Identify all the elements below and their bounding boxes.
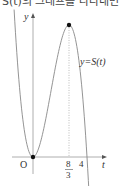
x-axis-label: t [102, 159, 105, 170]
tick-label-8-3-numerator: 8 [66, 159, 71, 169]
maximum-point [67, 23, 71, 27]
origin-label: O [20, 159, 27, 170]
tick-label-4: 4 [79, 159, 84, 169]
function-label: y=S(t) [79, 56, 106, 68]
y-axis-arrow [31, 13, 35, 18]
origin-point [31, 155, 35, 159]
tick-label-8-3-denominator: 3 [66, 170, 71, 180]
y-axis-label: y [23, 11, 29, 22]
chart: y t O y=S(t) 8 3 4 [0, 0, 124, 186]
